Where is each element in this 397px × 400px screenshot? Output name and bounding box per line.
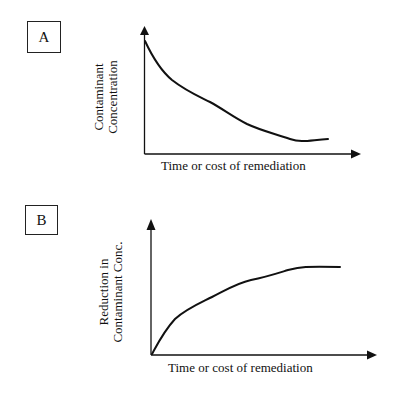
chart-a-ylabel-line1: Contaminant bbox=[92, 44, 106, 150]
chart-b-x-axis-label: Time or cost of remediation bbox=[168, 360, 313, 376]
chart-b-ylabel-line1: Reduction in bbox=[97, 232, 111, 352]
chart-a-x-arrow-icon bbox=[351, 150, 361, 159]
diagram-canvas bbox=[0, 0, 397, 400]
chart-b-ylabel-line2: Contaminant Conc. bbox=[111, 232, 125, 352]
chart-a-axes bbox=[145, 34, 353, 154]
chart-a-x-axis-label: Time or cost of remediation bbox=[161, 158, 306, 174]
chart-b-y-axis-label: Reduction in Contaminant Conc. bbox=[97, 232, 127, 352]
chart-b-y-arrow-icon bbox=[147, 219, 156, 230]
chart-a-y-arrow-icon bbox=[140, 26, 149, 35]
chart-b-x-arrow-icon bbox=[367, 351, 377, 360]
chart-a-ylabel-line2: Concentration bbox=[106, 44, 120, 150]
chart-a-y-axis-label: Contaminant Concentration bbox=[92, 44, 122, 150]
chart-b-curve bbox=[152, 267, 340, 354]
chart-b-axes bbox=[151, 229, 368, 355]
chart-a-curve bbox=[145, 41, 328, 141]
